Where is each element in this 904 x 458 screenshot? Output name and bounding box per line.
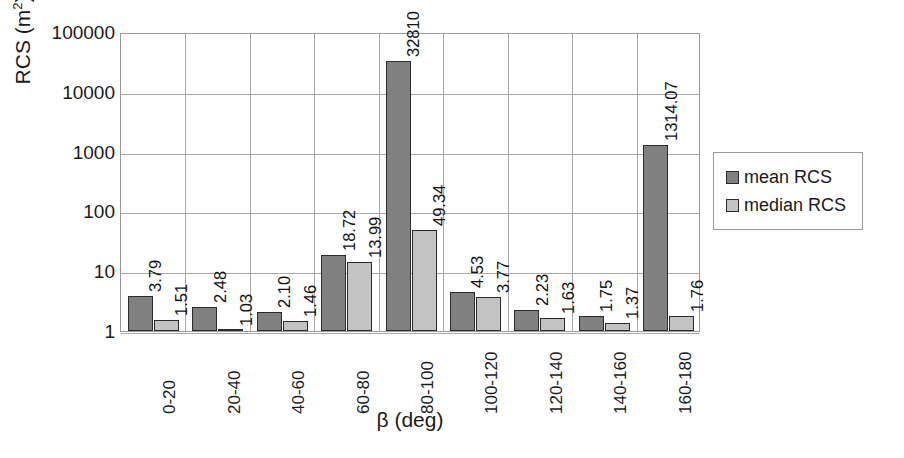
bar-value-label: 49.34 xyxy=(431,184,448,225)
bar-mean-rcs xyxy=(257,312,282,331)
x-axis-title: β (deg) xyxy=(120,408,700,432)
y-axis-tick-label: 1 xyxy=(15,321,115,343)
bar-median-rcs xyxy=(218,329,243,331)
legend-swatch-mean-icon xyxy=(726,171,739,184)
bar-value-label: 1.63 xyxy=(560,282,577,314)
bar-value-label: 18.72 xyxy=(341,210,358,251)
bar-median-rcs xyxy=(605,323,630,331)
bar-mean-rcs xyxy=(192,307,217,331)
gridline-horizontal xyxy=(121,333,699,334)
bar-mean-rcs xyxy=(514,310,539,331)
legend-item: mean RCS xyxy=(726,163,846,191)
bar-median-rcs xyxy=(154,320,179,331)
legend-item-label: median RCS xyxy=(744,195,846,216)
y-axis-tick-label: 100 xyxy=(15,201,115,223)
bar-value-label: 3.79 xyxy=(147,260,164,292)
bar-value-label: 1.46 xyxy=(302,285,319,317)
bar-mean-rcs xyxy=(450,292,475,331)
bar-median-rcs xyxy=(476,297,501,331)
bar-value-label: 2.48 xyxy=(212,271,229,303)
bar-value-label: 1.76 xyxy=(689,280,706,312)
gridline-vertical xyxy=(443,34,444,331)
y-axis-tick-label: 10000 xyxy=(15,82,115,104)
bar-value-label: 1.75 xyxy=(598,280,615,312)
bar-mean-rcs xyxy=(386,61,411,331)
legend-item: median RCS xyxy=(726,191,846,219)
y-axis-tick-label: 100000 xyxy=(15,22,115,44)
bar-value-label: 32810 xyxy=(405,11,422,57)
bar-median-rcs xyxy=(283,321,308,331)
legend: mean RCSmedian RCS xyxy=(713,152,863,230)
y-axis-tick-label: 10 xyxy=(15,261,115,283)
bar-value-label: 1.37 xyxy=(624,287,641,319)
bar-value-label: 13.99 xyxy=(367,217,384,258)
legend-item-label: mean RCS xyxy=(744,167,832,188)
bar-mean-rcs xyxy=(643,145,668,331)
bar-median-rcs xyxy=(412,230,437,331)
y-axis-tick-label: 1000 xyxy=(15,142,115,164)
x-axis-tick-label: 140-160 xyxy=(612,352,629,414)
x-axis-tick-labels: 0-2020-4040-6060-8080-100100-120120-1401… xyxy=(120,336,700,416)
bar-mean-rcs xyxy=(321,255,346,331)
chart-page: RCS (m2) 100000100001000100101 3.791.512… xyxy=(0,0,904,458)
x-axis-tick-label: 100-120 xyxy=(483,352,500,414)
gridline-vertical xyxy=(379,34,380,331)
x-axis-tick-label: 80-100 xyxy=(419,361,436,414)
bar-median-rcs xyxy=(347,262,372,331)
y-axis-tick-labels: 100000100001000100101 xyxy=(15,0,115,458)
bar-value-label: 1.03 xyxy=(238,294,255,326)
bar-value-label: 2.23 xyxy=(534,274,551,306)
x-axis-tick-label: 120-140 xyxy=(548,352,565,414)
bar-value-label: 1314.07 xyxy=(663,81,680,141)
bar-value-label: 4.53 xyxy=(469,256,486,288)
bar-mean-rcs xyxy=(128,296,153,331)
legend-swatch-median-icon xyxy=(726,199,739,212)
x-axis-tick-label: 160-180 xyxy=(677,352,694,414)
bar-median-rcs xyxy=(540,318,565,331)
bar-value-label: 3.77 xyxy=(495,260,512,292)
bar-median-rcs xyxy=(669,316,694,331)
plot-area: 3.791.512.481.032.101.4618.7213.99328104… xyxy=(120,33,700,332)
bar-value-label: 1.51 xyxy=(173,284,190,316)
bar-mean-rcs xyxy=(579,316,604,331)
gridline-vertical xyxy=(250,34,251,331)
bar-value-label: 2.10 xyxy=(276,276,293,308)
